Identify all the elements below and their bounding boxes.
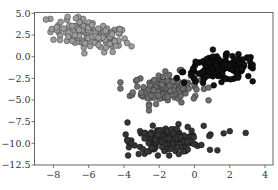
- x-tick-label: 0: [191, 169, 197, 180]
- data-point: [234, 71, 240, 77]
- scatter-points: [43, 14, 256, 159]
- data-point: [171, 131, 177, 137]
- data-point: [222, 62, 228, 68]
- data-point: [224, 51, 230, 57]
- x-tick-label: −2: [152, 169, 166, 180]
- data-point: [210, 47, 216, 53]
- data-point: [190, 66, 196, 72]
- data-point: [73, 15, 79, 21]
- data-point: [160, 74, 166, 80]
- data-point: [246, 55, 252, 61]
- data-point: [199, 69, 205, 75]
- data-point: [118, 79, 124, 85]
- x-tick-label: −6: [82, 169, 96, 180]
- data-point: [61, 26, 67, 32]
- data-point: [118, 86, 124, 92]
- data-point: [214, 63, 220, 69]
- data-point: [159, 139, 165, 145]
- data-point: [148, 131, 154, 137]
- data-point: [181, 80, 187, 86]
- data-point: [51, 37, 57, 43]
- data-point: [250, 78, 256, 84]
- data-point: [147, 83, 153, 89]
- data-point: [167, 88, 173, 94]
- x-tick-label: 2: [227, 169, 233, 180]
- data-point: [151, 77, 157, 83]
- data-point: [87, 43, 93, 49]
- data-point: [174, 75, 180, 81]
- x-tick-label: −8: [46, 169, 60, 180]
- data-point: [107, 41, 113, 47]
- data-point: [194, 87, 200, 93]
- x-tick-label: −4: [117, 169, 131, 180]
- data-point: [146, 108, 152, 114]
- data-point: [117, 26, 123, 32]
- data-point: [206, 97, 212, 103]
- data-point: [165, 94, 171, 100]
- data-point: [189, 72, 195, 78]
- data-point: [96, 42, 102, 48]
- data-point: [139, 90, 145, 96]
- y-tick-label: −12.5: [1, 159, 30, 170]
- data-point: [215, 147, 221, 153]
- data-point: [43, 17, 49, 23]
- data-point: [149, 93, 155, 99]
- data-point: [54, 24, 60, 30]
- data-point: [58, 19, 64, 25]
- data-point: [167, 83, 173, 89]
- data-point: [185, 139, 191, 145]
- data-point: [134, 84, 140, 90]
- x-axis: −8−6−4−2024: [46, 165, 268, 180]
- data-point: [191, 96, 197, 102]
- data-point: [151, 87, 157, 93]
- data-point: [125, 153, 131, 159]
- data-point: [136, 151, 142, 157]
- data-point: [155, 153, 161, 159]
- data-point: [166, 72, 172, 78]
- data-point: [109, 32, 115, 38]
- data-point: [141, 130, 147, 136]
- data-point: [206, 133, 212, 139]
- data-point: [211, 82, 217, 88]
- data-point: [130, 90, 136, 96]
- data-point: [123, 132, 129, 138]
- data-point: [142, 136, 148, 142]
- data-point: [76, 27, 82, 33]
- data-point: [245, 73, 251, 79]
- data-point: [150, 123, 156, 129]
- data-point: [72, 32, 78, 38]
- data-point: [205, 73, 211, 79]
- y-tick-label: 5.0: [15, 8, 30, 19]
- y-tick-label: 0.0: [15, 51, 30, 62]
- data-point: [134, 77, 140, 83]
- data-point: [206, 85, 212, 91]
- data-point: [156, 93, 162, 99]
- data-point: [149, 145, 155, 151]
- data-point: [178, 93, 184, 99]
- x-tick-label: 4: [262, 169, 268, 180]
- data-point: [110, 49, 116, 55]
- data-point: [239, 66, 245, 72]
- y-tick-label: −7.5: [7, 116, 30, 127]
- data-point: [82, 50, 88, 56]
- data-point: [228, 76, 234, 82]
- data-point: [193, 59, 199, 65]
- data-point: [207, 147, 213, 153]
- data-point: [82, 40, 88, 46]
- y-tick-label: 2.5: [15, 29, 30, 40]
- y-tick-label: −2.5: [7, 73, 30, 84]
- data-point: [103, 28, 109, 34]
- y-tick-label: −5.0: [7, 94, 30, 105]
- y-tick-label: −10.0: [1, 138, 30, 149]
- data-point: [222, 76, 228, 82]
- data-point: [166, 136, 172, 142]
- data-point: [199, 142, 205, 148]
- data-point: [96, 35, 102, 41]
- data-point: [57, 37, 63, 43]
- data-point: [125, 137, 131, 143]
- data-point: [175, 144, 181, 150]
- data-point: [124, 40, 130, 46]
- data-point: [227, 128, 233, 134]
- data-point: [159, 82, 165, 88]
- data-point: [191, 135, 197, 141]
